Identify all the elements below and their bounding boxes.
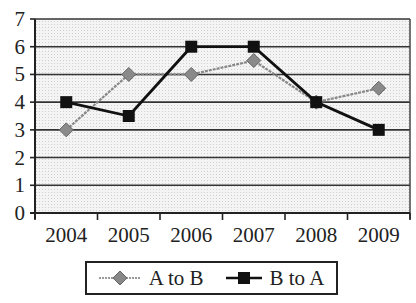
x-tick-label: 2007 bbox=[233, 223, 275, 247]
x-axis-ticks: 200420052006200720082009 bbox=[35, 213, 410, 247]
y-tick-label: 2 bbox=[15, 146, 26, 170]
x-tick-label: 2004 bbox=[45, 223, 88, 247]
y-axis-ticks: 01234567 bbox=[15, 7, 36, 225]
y-tick-label: 4 bbox=[15, 90, 26, 114]
square-marker-icon bbox=[373, 124, 385, 136]
legend-item-a-to-b: A to B bbox=[99, 266, 204, 291]
y-tick-label: 0 bbox=[15, 201, 26, 225]
diamond-marker-icon bbox=[99, 270, 141, 286]
square-marker-icon bbox=[60, 96, 72, 108]
legend-label: B to A bbox=[270, 266, 325, 291]
x-tick-label: 2006 bbox=[170, 223, 212, 247]
y-tick-label: 6 bbox=[15, 35, 26, 59]
y-tick-label: 3 bbox=[15, 118, 26, 142]
legend-label: A to B bbox=[149, 266, 204, 291]
square-marker-icon bbox=[123, 110, 135, 122]
legend: A to B B to A bbox=[85, 261, 338, 295]
line-chart: 01234567 200420052006200720082009 bbox=[0, 0, 416, 260]
square-marker-icon bbox=[226, 270, 262, 286]
square-marker-icon bbox=[248, 41, 260, 53]
x-tick-label: 2005 bbox=[108, 223, 150, 247]
y-tick-label: 7 bbox=[15, 7, 26, 31]
square-marker-icon bbox=[310, 96, 322, 108]
y-tick-label: 5 bbox=[15, 62, 26, 86]
x-tick-label: 2009 bbox=[358, 223, 400, 247]
square-marker-icon bbox=[185, 41, 197, 53]
y-tick-label: 1 bbox=[15, 173, 26, 197]
x-tick-label: 2008 bbox=[295, 223, 337, 247]
legend-item-b-to-a: B to A bbox=[226, 266, 325, 291]
